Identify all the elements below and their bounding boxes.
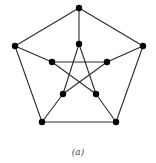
graph-node bbox=[140, 43, 146, 49]
petersen-graph-diagram bbox=[0, 0, 156, 163]
graph-node bbox=[49, 59, 55, 65]
graph-node bbox=[93, 91, 99, 97]
graph-edge bbox=[96, 94, 116, 122]
graph-edge bbox=[15, 8, 79, 46]
graph-node bbox=[60, 91, 66, 97]
graph-node bbox=[39, 119, 45, 125]
graph-edge bbox=[15, 46, 52, 62]
graph-edge bbox=[116, 46, 143, 122]
graph-edge bbox=[79, 8, 143, 46]
graph-edges bbox=[15, 8, 143, 122]
graph-edge bbox=[63, 44, 79, 94]
graph-edge bbox=[15, 46, 42, 122]
graph-edge bbox=[79, 44, 96, 94]
graph-edge bbox=[52, 62, 96, 94]
graph-node bbox=[76, 5, 82, 11]
graph-node bbox=[12, 43, 18, 49]
graph-edge bbox=[42, 94, 63, 122]
graph-node bbox=[76, 41, 82, 47]
graph-edge bbox=[63, 62, 107, 94]
figure-caption: (a) bbox=[0, 147, 156, 157]
graph-node bbox=[104, 59, 110, 65]
graph-node bbox=[113, 119, 119, 125]
